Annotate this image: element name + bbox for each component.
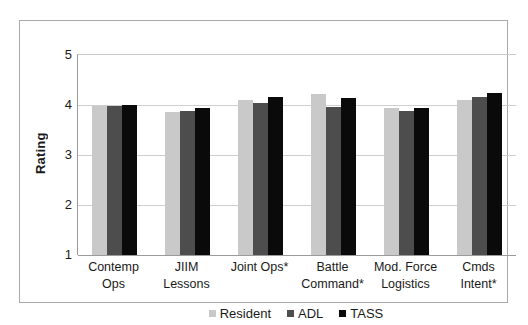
legend-label: TASS xyxy=(350,306,383,321)
bar[interactable] xyxy=(253,103,268,256)
bar-group xyxy=(370,55,443,255)
x-axis-category-label: Mod. ForceLogistics xyxy=(369,259,442,293)
y-axis-tick-label: 3 xyxy=(50,147,72,162)
legend-item[interactable]: Resident xyxy=(209,306,271,321)
x-axis-label-line: Command* xyxy=(296,276,369,293)
y-axis-tick-label: 5 xyxy=(50,47,72,62)
x-axis-label-line: Joint Ops* xyxy=(223,259,296,276)
x-axis-line xyxy=(78,255,516,256)
bars-layer xyxy=(78,55,516,255)
bar[interactable] xyxy=(326,107,341,256)
bar[interactable] xyxy=(238,100,253,255)
y-axis-tick-label: 4 xyxy=(50,97,72,112)
x-axis-label-line: Lessons xyxy=(150,276,223,293)
bar-group xyxy=(443,55,516,255)
legend-swatch-icon xyxy=(287,310,294,317)
bar[interactable] xyxy=(165,112,180,256)
x-axis-category-labels: ContempOpsJIIMLessonsJoint Ops*BattleCom… xyxy=(77,259,515,299)
x-axis-category-label: JIIMLessons xyxy=(150,259,223,293)
chart-container: Rating 54321 ContempOpsJIIMLessonsJoint … xyxy=(19,20,508,303)
x-axis-label-line: JIIM xyxy=(150,259,223,276)
bar[interactable] xyxy=(472,97,487,255)
bar[interactable] xyxy=(311,94,326,256)
x-axis-label-line: Ops xyxy=(77,276,150,293)
bar[interactable] xyxy=(92,106,107,255)
x-axis-label-line: Logistics xyxy=(369,276,442,293)
bar-group xyxy=(297,55,370,255)
bar[interactable] xyxy=(384,108,399,255)
bar[interactable] xyxy=(341,98,356,255)
x-axis-label-line: Cmds xyxy=(442,259,515,276)
bar[interactable] xyxy=(457,100,472,255)
legend-label: ADL xyxy=(298,306,323,321)
x-axis-label-line: Mod. Force xyxy=(369,259,442,276)
bar-group xyxy=(224,55,297,255)
legend-item[interactable]: TASS xyxy=(339,306,383,321)
bar[interactable] xyxy=(107,106,122,255)
y-axis-tick-labels: 54321 xyxy=(50,47,72,263)
x-axis-label-line: Battle xyxy=(296,259,369,276)
chart-legend: ResidentADLTASS xyxy=(77,303,515,323)
x-axis-category-label: BattleCommand* xyxy=(296,259,369,293)
bar[interactable] xyxy=(414,108,429,256)
bar[interactable] xyxy=(180,111,195,255)
legend-label: Resident xyxy=(220,306,271,321)
y-axis-title: Rating xyxy=(31,113,49,193)
bar[interactable] xyxy=(122,105,137,255)
legend-swatch-icon xyxy=(339,310,346,317)
bar-group xyxy=(151,55,224,255)
bar[interactable] xyxy=(268,97,283,256)
x-axis-category-label: ContempOps xyxy=(77,259,150,293)
bar[interactable] xyxy=(487,93,502,256)
x-axis-label-line: Contemp xyxy=(77,259,150,276)
plot-area xyxy=(77,54,516,255)
legend-swatch-icon xyxy=(209,310,216,317)
legend-item[interactable]: ADL xyxy=(287,306,323,321)
x-axis-category-label: CmdsIntent* xyxy=(442,259,515,293)
x-axis-label-line: Intent* xyxy=(442,276,515,293)
bar-group xyxy=(78,55,151,255)
y-axis-tick-label: 2 xyxy=(50,197,72,212)
x-axis-category-label: Joint Ops* xyxy=(223,259,296,276)
bar[interactable] xyxy=(399,111,414,256)
y-axis-tick-label: 1 xyxy=(50,247,72,262)
bar[interactable] xyxy=(195,108,210,255)
